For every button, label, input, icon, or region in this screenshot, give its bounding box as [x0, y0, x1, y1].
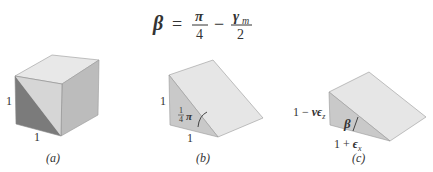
equation-two: 2 — [237, 27, 244, 42]
cube-bottom-label: 1 — [34, 130, 40, 144]
caption-b: (b) — [196, 151, 210, 165]
angle-b-den: 4 — [179, 115, 183, 124]
caption-a: (a) — [46, 151, 60, 165]
angle-b-pi: π — [186, 110, 193, 122]
caption-c: (c) — [352, 151, 365, 165]
figure-canvas: β = π 4 − γ m 2 1 1 (a) 1 1 1 4 — [0, 0, 433, 172]
equation-minus: − — [214, 14, 224, 34]
wedge-b-left-label: 1 — [160, 94, 166, 108]
angle-c-beta: β — [343, 116, 351, 131]
equation-four: 4 — [196, 27, 203, 42]
wedge-b-bottom-label: 1 — [187, 131, 193, 145]
equation: β = π 4 − γ m 2 — [152, 8, 252, 42]
wedge-c-left-label: 1 − νϵz — [293, 105, 326, 121]
equation-gamma: γ — [233, 8, 240, 24]
equation-equals: = — [172, 14, 182, 34]
equation-gamma-sub: m — [242, 15, 249, 26]
cube-left-label: 1 — [6, 94, 12, 108]
equation-beta: β — [152, 12, 164, 35]
angle-b-num: 1 — [179, 106, 183, 115]
cube-figure-a: 1 1 (a) — [6, 55, 99, 165]
wedge-figure-c: 1 − νϵz β 1 + ϵx (c) — [293, 72, 426, 165]
equation-pi: π — [195, 8, 204, 24]
wedge-figure-b: 1 1 1 4 π (b) — [160, 60, 263, 165]
